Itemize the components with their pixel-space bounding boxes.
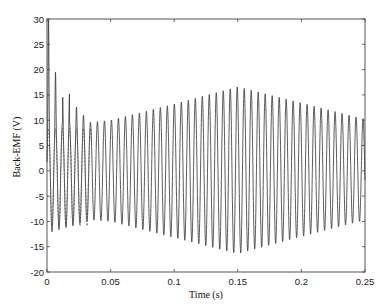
y-tick-label: -5: [36, 191, 44, 202]
x-axis-label: Time (s): [189, 289, 223, 301]
y-tick-label: 10: [33, 115, 44, 126]
y-tick-label: -15: [30, 241, 44, 252]
x-tick-label: 0.25: [356, 276, 375, 287]
back-emf-chart: 00.050.10.150.20.25 -20-15-10-5051015202…: [0, 0, 390, 307]
x-tick-label: 0.15: [229, 276, 248, 287]
y-tick-label: 0: [39, 165, 44, 176]
y-tick-label: 20: [33, 64, 44, 75]
y-tick-label: 15: [33, 89, 44, 100]
x-tick-label: 0: [44, 276, 49, 287]
plot-background: [47, 19, 365, 272]
y-tick-label: 25: [33, 39, 44, 50]
x-tick-label: 0.05: [101, 276, 120, 287]
y-tick-label: -20: [30, 267, 44, 278]
y-tick-label: -10: [30, 216, 44, 227]
x-tick-label: 0.1: [168, 276, 181, 287]
x-tick-label: 0.2: [295, 276, 308, 287]
y-tick-label: 5: [39, 140, 44, 151]
y-axis-label: Back-EMF (V): [11, 117, 23, 178]
y-tick-label: 30: [33, 14, 44, 25]
